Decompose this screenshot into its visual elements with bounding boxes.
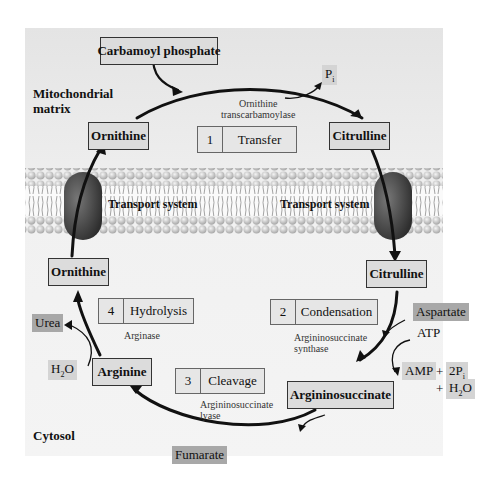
enzyme-arginase: Arginase	[124, 330, 160, 341]
two-pi-text: 2P	[449, 363, 463, 378]
transport-system-label-right: Transport system	[280, 197, 369, 212]
metabolite-ornithine-cytosol: Ornithine	[48, 258, 109, 286]
species-atp: ATP	[417, 325, 440, 341]
metabolite-citrulline-cytosol: Citrulline	[366, 260, 427, 288]
species-fumarate: Fumarate	[172, 446, 227, 464]
enzyme-ornithine-transcarbamoylase: Ornithine transcarbamoylase	[221, 98, 295, 120]
metabolite-argininosuccinate: Argininosuccinate	[287, 381, 394, 409]
enzyme-line2: transcarbamoylase	[221, 109, 295, 120]
species-aspartate: Aspartate	[413, 303, 469, 321]
enzyme-line1: Argininosuccinate	[294, 332, 367, 343]
species-amp: AMP	[402, 362, 436, 380]
species-h2o-left: H2O	[48, 360, 77, 380]
step-4-hydrolysis: 4 Hydrolysis	[98, 298, 194, 324]
species-urea: Urea	[32, 314, 63, 332]
enzyme-line2: synthase	[294, 343, 367, 354]
enzyme-argininosuccinate-synthase: Argininosuccinate synthase	[294, 332, 367, 354]
step-name: Cleavage	[201, 369, 264, 393]
enzyme-line1: Ornithine	[221, 98, 295, 109]
matrix-label-line2: matrix	[33, 101, 113, 116]
enzyme-line2: lyase	[200, 410, 273, 421]
plus-sign-1: +	[436, 364, 443, 380]
step-number: 4	[99, 299, 124, 323]
region-label-matrix: Mitochondrial matrix	[33, 86, 113, 116]
h-text: H	[51, 361, 60, 376]
species-pi: Pi	[322, 65, 337, 85]
enzyme-line1: Argininosuccinate	[200, 399, 273, 410]
step-name: Hydrolysis	[124, 299, 193, 323]
h-text: H	[449, 380, 458, 395]
pi-sub: i	[332, 75, 334, 84]
enzyme-argininosuccinate-lyase: Argininosuccinate lyase	[200, 399, 273, 421]
transport-system-label-left: Transport system	[108, 197, 197, 212]
step-number: 3	[176, 369, 201, 393]
metabolite-ornithine-matrix: Ornithine	[88, 122, 149, 150]
o-text: O	[462, 380, 471, 395]
o-text: O	[64, 361, 73, 376]
step-number: 2	[271, 300, 296, 324]
step-name: Condensation	[296, 300, 377, 324]
metabolite-carbamoyl-phosphate: Carbamoyl phosphate	[100, 37, 218, 65]
metabolite-citrulline-matrix: Citrulline	[329, 122, 390, 150]
region-label-cytosol: Cytosol	[33, 428, 75, 443]
step-2-condensation: 2 Condensation	[270, 299, 378, 325]
species-h2o-right: H2O	[446, 379, 475, 399]
step-number: 1	[198, 127, 223, 152]
step-1-transfer: 1 Transfer	[197, 126, 297, 153]
metabolite-arginine: Arginine	[92, 358, 152, 386]
transporter-left	[64, 172, 102, 240]
step-name: Transfer	[223, 127, 296, 152]
step-3-cleavage: 3 Cleavage	[175, 368, 265, 394]
matrix-label-line1: Mitochondrial	[33, 86, 113, 101]
plus-sign-2: +	[436, 381, 443, 397]
